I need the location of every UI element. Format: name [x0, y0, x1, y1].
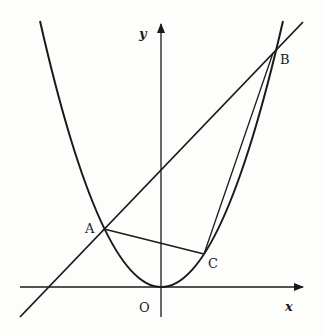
point-c-label: C [208, 256, 218, 271]
y-axis-label: y [138, 26, 148, 41]
point-a-label: A [84, 221, 95, 236]
diagram-canvas: y x O A B C [0, 0, 322, 335]
segment-cb [204, 53, 273, 254]
segment-ac [104, 229, 204, 254]
origin-label: O [139, 300, 150, 315]
point-b-label: B [280, 52, 290, 67]
x-axis-label: x [284, 299, 293, 314]
